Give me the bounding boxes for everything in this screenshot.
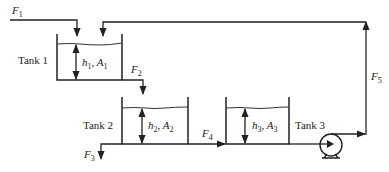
pump-assembly	[289, 134, 365, 158]
tank-2-water-level	[122, 107, 188, 109]
f5-label: F5	[370, 70, 382, 85]
tank-2-label: Tank 2	[83, 119, 113, 131]
tank-2-walls	[122, 97, 188, 144]
f3-line	[101, 144, 122, 159]
three-tank-diagram: F1 F5 h1, A1 Tank 1 F2 h2, A2 Tank 2 F3 …	[0, 0, 389, 172]
pump-icon	[320, 134, 342, 158]
tank-3: h3, A3 Tank 3	[226, 97, 326, 144]
tank-1-walls	[57, 34, 122, 80]
tank-1-params: h1, A1	[82, 56, 108, 71]
tank-1-water-level	[57, 43, 122, 45]
f2-line	[122, 80, 143, 94]
stream-f3: F3	[83, 144, 122, 163]
f1-label: F1	[11, 4, 23, 19]
f1-line	[10, 20, 77, 36]
tank-3-water-level	[226, 107, 289, 109]
tank-1-label: Tank 1	[18, 54, 48, 66]
tank-3-walls	[226, 97, 289, 144]
tank-3-label: Tank 3	[295, 119, 326, 131]
tank-1: h1, A1 Tank 1	[18, 34, 122, 80]
tank-2: h2, A2 Tank 2	[83, 97, 188, 144]
f4-label: F4	[201, 127, 213, 142]
stream-f2: F2	[122, 63, 143, 94]
stream-f4: F4	[188, 127, 225, 144]
stream-f5: F5	[103, 22, 382, 135]
f2-label: F2	[130, 63, 142, 78]
f3-label: F3	[83, 148, 95, 163]
tank-3-params: h3, A3	[252, 119, 278, 134]
f5-return-line	[103, 22, 366, 36]
stream-f1: F1	[10, 4, 77, 36]
tank-2-params: h2, A2	[148, 119, 174, 134]
